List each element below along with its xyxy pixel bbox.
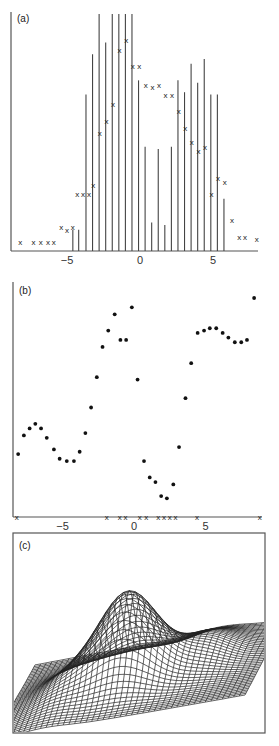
x-marker: x [156,513,160,522]
x-marker: x [15,513,19,522]
x-marker: x [59,223,63,232]
x-marker: x [150,83,154,92]
panel-label-c: (c) [19,540,31,551]
data-point [208,326,212,330]
x-marker: x [258,513,262,522]
data-point [214,326,218,330]
data-point [52,448,56,452]
data-point [136,378,140,382]
data-point [165,496,169,500]
x-marker: x [162,513,166,522]
data-point [113,312,117,316]
x-tick-label: 5 [202,520,208,530]
x-marker: x [168,513,172,522]
x-marker: x [105,513,109,522]
data-point [119,338,123,342]
x-marker: x [164,91,168,100]
data-point [45,436,49,440]
data-point [233,340,237,344]
x-marker: x [177,107,181,116]
x-marker: x [118,46,122,55]
x-marker: x [18,238,22,247]
data-point [39,427,43,431]
data-point [130,305,134,309]
x-marker: x [75,190,79,199]
x-marker: x [104,117,108,126]
x-marker: x [195,513,199,522]
x-marker: x [138,513,142,522]
panel-c: (c) [0,530,279,746]
data-point [171,482,175,486]
x-tick-label: 5 [210,254,216,266]
x-marker: x [255,235,259,244]
x-marker: x [173,513,177,522]
data-point [189,361,193,365]
x-marker: x [98,129,102,138]
data-point [226,336,230,340]
x-marker: x [31,238,35,247]
x-tick-labels-b: −505 [56,520,208,530]
x-marker: x [81,190,85,199]
dot-series-b [16,296,256,500]
x-marker: x [91,181,95,190]
data-point [78,450,82,454]
data-point [124,338,128,342]
data-point [89,406,93,410]
data-point [202,329,206,333]
x-marker: x [65,226,69,235]
data-point [95,375,99,379]
x-tick-label: 0 [131,520,137,530]
x-marker: x [230,216,234,225]
data-point [239,340,243,344]
data-point [22,434,26,438]
x-marker: x [118,513,122,522]
data-point [184,396,188,400]
data-point [72,459,76,463]
x-marker: x [210,190,214,199]
x-marker: x [39,238,43,247]
x-marker: x [46,238,50,247]
data-point [16,452,20,456]
x-marker: x [71,223,75,232]
scatter-chart-b: (b) xxxxxxxxxxxx −505 [0,272,279,530]
x-marker: x [124,36,128,45]
panel-label-b: (b) [19,285,31,296]
x-marker: x [144,513,148,522]
x-marker: x [237,233,241,242]
x-marker: x [123,513,127,522]
x-tick-labels-a: −505 [61,254,216,266]
x-marker: x [196,147,200,156]
data-point [83,431,87,435]
panel-label-a: (a) [17,13,29,24]
surface-plot-c: (c) [0,530,279,746]
data-point [106,329,110,333]
data-point [58,457,62,461]
x-marker: x [170,91,174,100]
x-marker: x [223,178,227,187]
data-point [28,427,32,431]
data-point [154,480,158,484]
data-point [33,422,37,426]
x-tick-label: −5 [61,254,74,266]
panel-a: (a) xxxxxxxxxxxxxxxxxxxxxxxxxxxxxxxxxxxx… [0,0,279,272]
data-point [177,445,181,449]
data-point [65,459,69,463]
bar-series-a [73,14,224,251]
x-marker: x [111,100,115,109]
panel-b: (b) xxxxxxxxxxxx −505 [0,272,279,530]
x-marker: x [137,62,141,71]
x-marker: x [216,174,220,183]
data-point [252,296,256,300]
x-tick-label: 0 [137,254,143,266]
x-marker: x [52,238,56,247]
x-marker: x [203,143,207,152]
x-marker: x [243,233,247,242]
data-point [142,459,146,463]
data-point [196,331,200,335]
data-point [221,331,225,335]
data-point [159,494,163,498]
data-point [101,345,105,349]
data-point [245,338,249,342]
bar-chart-a: (a) xxxxxxxxxxxxxxxxxxxxxxxxxxxxxxxxxxxx… [0,0,279,272]
x-marker: x [144,81,148,90]
